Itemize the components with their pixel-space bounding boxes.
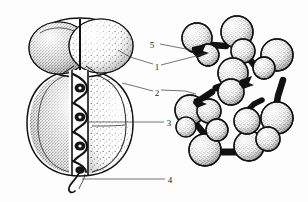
left-panel-ovoid-cell bbox=[20, 17, 140, 192]
bead bbox=[234, 108, 260, 134]
bead bbox=[253, 57, 275, 79]
central-helix bbox=[69, 70, 89, 176]
illustration-plate: 5 1 2 3 4 bbox=[0, 0, 308, 202]
label-3: 3 bbox=[167, 118, 172, 128]
leader-line-2-right bbox=[161, 90, 196, 94]
label-numerals: 5 1 2 3 4 bbox=[150, 40, 173, 185]
label-2: 2 bbox=[155, 88, 160, 98]
bead bbox=[206, 119, 228, 141]
chain-beads bbox=[175, 16, 293, 166]
label-4: 4 bbox=[168, 175, 173, 185]
right-panel-sphere-chain bbox=[175, 16, 293, 166]
bead bbox=[176, 117, 196, 137]
label-5: 5 bbox=[150, 40, 155, 50]
bead bbox=[256, 127, 280, 151]
figure-canvas: 5 1 2 3 4 bbox=[0, 0, 308, 202]
cell-apical-cap bbox=[27, 17, 136, 78]
leader-line-2-left bbox=[122, 83, 153, 91]
label-1: 1 bbox=[155, 62, 160, 72]
